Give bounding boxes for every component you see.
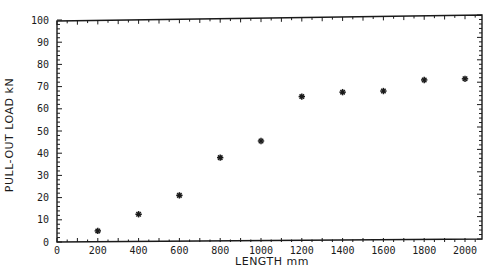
- x-tick-label: 1600: [371, 245, 395, 256]
- x-tick-label: 1800: [412, 245, 436, 256]
- y-tick-label: 30: [37, 170, 49, 181]
- x-tick-label: 200: [89, 245, 107, 256]
- y-tick-label: 40: [37, 148, 49, 159]
- y-axis-title: PULL-OUT LOAD kN: [3, 78, 16, 192]
- data-point-asterisk: [258, 138, 264, 144]
- y-tick-label: 20: [37, 192, 49, 203]
- plot-frame: [57, 15, 482, 242]
- data-point-asterisk: [299, 93, 305, 99]
- x-axis-title: LENGTH mm: [235, 255, 309, 268]
- axis-ticks: [57, 15, 482, 242]
- data-points: [95, 76, 469, 234]
- chart-canvas: 0200400600800100012001400160018002000 01…: [0, 0, 490, 272]
- x-tick-label: 0: [54, 245, 60, 256]
- y-axis-tick-labels: 0102030405060708090100: [31, 15, 49, 248]
- data-point-asterisk: [176, 192, 182, 198]
- x-tick-label: 2000: [453, 245, 477, 256]
- data-point-asterisk: [380, 88, 386, 94]
- y-tick-label: 60: [37, 103, 49, 114]
- data-point-asterisk: [217, 154, 223, 160]
- data-point-asterisk: [339, 89, 345, 95]
- data-point-asterisk: [462, 76, 468, 82]
- y-tick-label: 10: [37, 214, 49, 225]
- data-point-asterisk: [421, 77, 427, 83]
- y-tick-label: 0: [43, 237, 49, 248]
- x-tick-label: 800: [211, 245, 229, 256]
- y-tick-label: 100: [31, 15, 49, 26]
- x-tick-label: 1400: [331, 245, 355, 256]
- scatter-chart: 0200400600800100012001400160018002000 01…: [0, 0, 490, 272]
- data-point-asterisk: [95, 228, 101, 234]
- y-tick-label: 80: [37, 59, 49, 70]
- y-tick-label: 50: [37, 126, 49, 137]
- x-tick-label: 400: [130, 245, 148, 256]
- y-tick-label: 90: [37, 37, 49, 48]
- x-tick-label: 600: [170, 245, 188, 256]
- data-point-asterisk: [135, 211, 141, 217]
- y-tick-label: 70: [37, 81, 49, 92]
